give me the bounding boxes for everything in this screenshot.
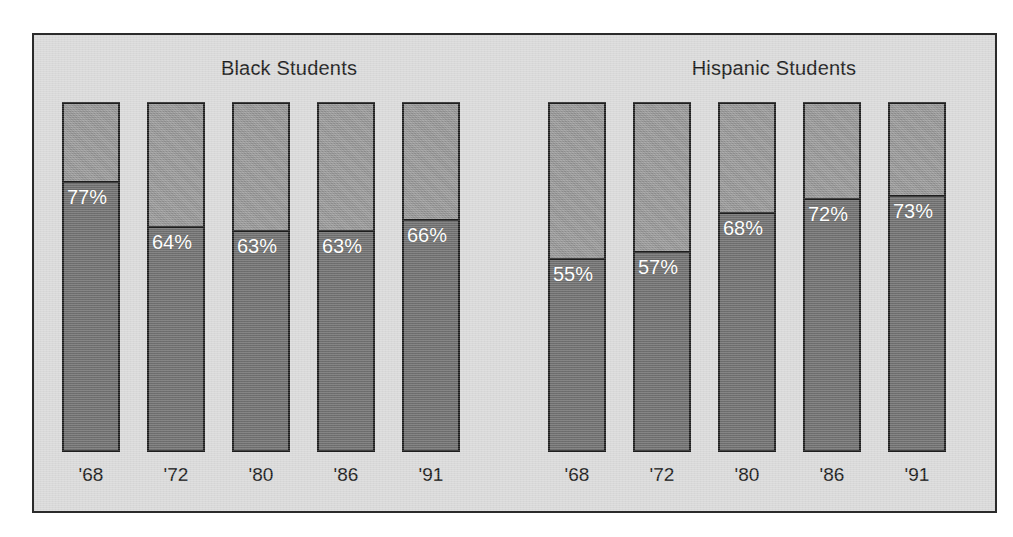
bar-fill-hispanic-72: 57% bbox=[635, 251, 689, 451]
bar-fill-hispanic-80: 68% bbox=[720, 212, 774, 450]
chart-frame: Black Students 77% '68 64% '72 63% '80 bbox=[32, 33, 997, 513]
bar-label-hispanic-68: '68 bbox=[548, 464, 606, 486]
bar-black-86: 63% bbox=[317, 102, 375, 452]
bar-group-black-students: 77% '68 64% '72 63% '80 63% '86 bbox=[62, 102, 522, 452]
bar-fill-black-72: 64% bbox=[149, 226, 203, 450]
bar-black-72: 64% bbox=[147, 102, 205, 452]
bar-label-black-86: '86 bbox=[317, 464, 375, 486]
bar-fill-hispanic-86: 72% bbox=[805, 198, 859, 450]
bar-value-black-86: 63% bbox=[322, 235, 362, 258]
group-title-hispanic-students: Hispanic Students bbox=[629, 57, 919, 80]
bar-hispanic-86: 72% bbox=[803, 102, 861, 452]
bar-value-hispanic-68: 55% bbox=[553, 263, 593, 286]
bar-fill-hispanic-68: 55% bbox=[550, 258, 604, 451]
bar-value-black-68: 77% bbox=[67, 186, 107, 209]
bar-label-black-72: '72 bbox=[147, 464, 205, 486]
bar-black-91: 66% bbox=[402, 102, 460, 452]
bar-label-black-68: '68 bbox=[62, 464, 120, 486]
group-title-black-students: Black Students bbox=[144, 57, 434, 80]
bar-label-hispanic-80: '80 bbox=[718, 464, 776, 486]
bar-value-hispanic-91: 73% bbox=[893, 200, 933, 223]
bar-hispanic-72: 57% bbox=[633, 102, 691, 452]
bar-fill-black-68: 77% bbox=[64, 181, 118, 451]
bar-label-black-91: '91 bbox=[402, 464, 460, 486]
bar-value-hispanic-86: 72% bbox=[808, 203, 848, 226]
bar-label-hispanic-72: '72 bbox=[633, 464, 691, 486]
bar-label-black-80: '80 bbox=[232, 464, 290, 486]
bar-value-black-72: 64% bbox=[152, 231, 192, 254]
bar-value-hispanic-72: 57% bbox=[638, 256, 678, 279]
bar-label-hispanic-86: '86 bbox=[803, 464, 861, 486]
bar-hispanic-80: 68% bbox=[718, 102, 776, 452]
bar-group-hispanic-students: 55% '68 57% '72 68% '80 72% '86 bbox=[548, 102, 1008, 452]
bar-black-80: 63% bbox=[232, 102, 290, 452]
bar-black-68: 77% bbox=[62, 102, 120, 452]
bar-fill-black-91: 66% bbox=[404, 219, 458, 450]
bar-hispanic-68: 55% bbox=[548, 102, 606, 452]
bar-value-black-91: 66% bbox=[407, 224, 447, 247]
bar-value-hispanic-80: 68% bbox=[723, 217, 763, 240]
bar-fill-black-80: 63% bbox=[234, 230, 288, 451]
bar-hispanic-91: 73% bbox=[888, 102, 946, 452]
bar-fill-black-86: 63% bbox=[319, 230, 373, 451]
bar-label-hispanic-91: '91 bbox=[888, 464, 946, 486]
bar-value-black-80: 63% bbox=[237, 235, 277, 258]
bar-fill-hispanic-91: 73% bbox=[890, 195, 944, 451]
